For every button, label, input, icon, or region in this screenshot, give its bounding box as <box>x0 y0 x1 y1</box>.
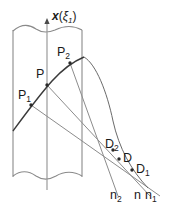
axis-label: x(ξ1) <box>52 10 77 22</box>
ray-from-p1-to-d1 <box>31 105 160 196</box>
normal-label-n-base: n <box>134 188 141 202</box>
normal-label-n1-base: n <box>145 188 152 202</box>
point-marker-d1 <box>130 168 133 171</box>
normal-label-n2: n2 <box>110 189 122 202</box>
point-label-d2-subscript: 2 <box>114 143 119 153</box>
point-label-d1-subscript: 1 <box>145 168 150 178</box>
point-label-p-base: P <box>36 67 44 81</box>
point-label-d-base: D <box>123 151 132 165</box>
point-marker-p2 <box>68 61 71 64</box>
point-label-d1-base: D <box>136 162 145 176</box>
point-label-p: P <box>36 68 44 81</box>
point-label-p2-subscript: 2 <box>65 51 70 61</box>
axis-label-variable: x <box>52 9 59 23</box>
wavefront-diagram: x(ξ1) P1 P P2 D2 D D1 n2 n n1 <box>0 0 175 209</box>
point-label-d: D <box>123 152 132 165</box>
axis-arrow-head-icon <box>44 18 49 24</box>
point-label-p2: P2 <box>57 46 70 59</box>
point-marker-p <box>45 83 48 86</box>
normal-label-n1: n1 <box>145 189 157 202</box>
point-label-d2: D2 <box>105 138 119 151</box>
normal-label-n: n <box>134 189 141 202</box>
point-label-d1: D1 <box>136 163 150 176</box>
point-label-d2-base: D <box>105 137 114 151</box>
axis-label-xi-subscript: 1 <box>68 16 72 25</box>
point-label-p1: P1 <box>18 89 31 102</box>
normal-label-n2-subscript: 2 <box>117 194 122 204</box>
normal-label-n1-subscript: 1 <box>152 194 157 204</box>
point-marker-d <box>117 157 120 160</box>
point-label-p1-subscript: 1 <box>26 94 31 104</box>
axis-label-close-paren: ) <box>73 9 77 23</box>
normal-label-n2-base: n <box>110 188 117 202</box>
ray-from-p2-to-d2 <box>70 63 118 196</box>
